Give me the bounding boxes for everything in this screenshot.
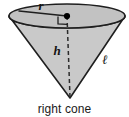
height-label: h [53,43,60,58]
cone-diagram: r h ℓ [0,0,129,117]
right-cone-figure: r h ℓ right cone [0,0,129,117]
slant-height-label: ℓ [102,52,108,67]
figure-caption: right cone [0,102,129,116]
center-dot [64,13,70,19]
